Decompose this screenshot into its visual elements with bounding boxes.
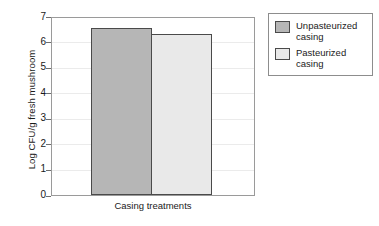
y-tick-mark-0	[46, 196, 51, 197]
legend-label-unpasteurized: Unpasteurized casing	[296, 20, 367, 42]
y-tick-label-6: 6	[24, 37, 46, 47]
y-tick-label-5: 5	[24, 62, 46, 72]
plot-area	[51, 17, 255, 196]
bar-pasteurized-casing	[151, 34, 212, 195]
y-tick-label-1: 1	[24, 164, 46, 174]
bar-unpasteurized-casing	[91, 28, 152, 195]
y-tick-label-0: 0	[24, 190, 46, 200]
legend-swatch-unpasteurized-icon	[275, 21, 290, 33]
legend-item-pasteurized: Pasteurized casing	[275, 47, 367, 69]
y-tick-label-3: 3	[24, 113, 46, 123]
y-tick-label-2: 2	[24, 139, 46, 149]
legend-label-pasteurized: Pasteurized casing	[296, 47, 367, 69]
y-tick-label-7: 7	[24, 12, 46, 22]
chart-legend: Unpasteurized casing Pasteurized casing	[268, 13, 373, 76]
bar-chart-figure: Log CFU/g fresh mushroom 7 6 5 4 3 2 1 0…	[0, 0, 379, 226]
y-tick-label-4: 4	[24, 88, 46, 98]
legend-swatch-pasteurized-icon	[275, 48, 290, 60]
x-axis-label: Casing treatments	[51, 200, 255, 211]
legend-item-unpasteurized: Unpasteurized casing	[275, 20, 367, 42]
